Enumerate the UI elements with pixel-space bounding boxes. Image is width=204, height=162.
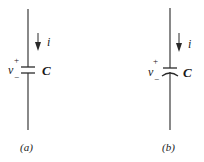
- figure-b: i + v − C (b): [148, 8, 192, 154]
- current-label-b: i: [188, 37, 191, 51]
- caption-b: (b): [162, 141, 175, 154]
- voltage-plus-b: +: [153, 56, 158, 66]
- capacitor-diagram: i + v − C (a) i + v − C (b): [0, 0, 204, 162]
- component-label-a: C: [42, 63, 51, 78]
- voltage-minus-b: −: [154, 74, 159, 84]
- current-arrowhead-icon-a: [35, 42, 41, 51]
- current-label-a: i: [47, 35, 50, 49]
- figure-a: i + v − C (a): [8, 9, 51, 154]
- voltage-plus-a: +: [14, 55, 19, 65]
- caption-a: (a): [20, 141, 33, 154]
- component-label-b: C: [183, 65, 192, 80]
- current-arrowhead-icon-b: [176, 43, 182, 52]
- voltage-minus-a: −: [14, 72, 19, 82]
